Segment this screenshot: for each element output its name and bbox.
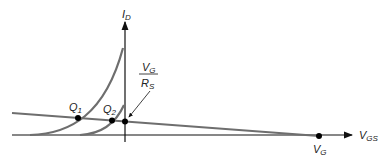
q2-label: Q2 [103,103,117,117]
transfer-characteristic-diagram: VG RS ID VGS VG Q1 Q2 [0,0,382,162]
y-axis-label: ID [122,8,131,22]
fraction-numerator: VG [142,61,156,75]
q1-point [75,115,81,121]
q1-label: Q1 [69,101,82,115]
y-intercept-point [122,119,128,125]
vg-label: VG [313,143,327,157]
q2-point [109,118,115,124]
fraction-denominator: RS [141,77,155,91]
pointer-arrow [129,91,150,117]
x-axis-label: VGS [359,129,379,143]
bias-line [12,113,319,136]
vg-point [316,133,322,139]
transfer-curve-1 [30,48,123,135]
